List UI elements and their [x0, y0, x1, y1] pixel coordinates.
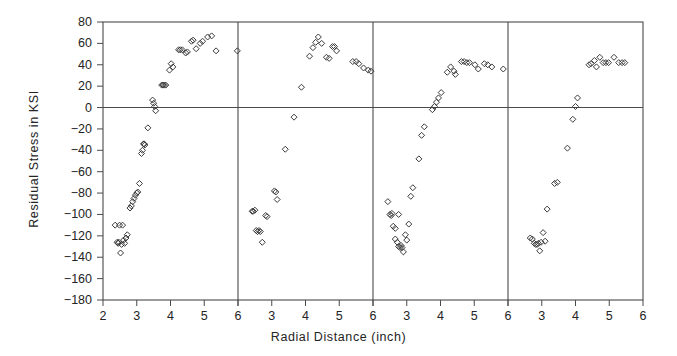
data-point	[444, 69, 450, 75]
data-point	[282, 146, 288, 152]
data-point	[402, 232, 408, 238]
data-point	[408, 193, 414, 199]
data-point	[421, 124, 427, 130]
data-point	[573, 103, 579, 109]
data-point	[332, 44, 338, 50]
data-point	[145, 125, 151, 131]
data-point	[323, 54, 329, 60]
data-point	[554, 179, 560, 185]
data-point	[274, 196, 280, 202]
data-point	[259, 239, 265, 245]
data-point	[213, 48, 219, 54]
data-point	[319, 40, 325, 46]
data-point	[151, 100, 157, 106]
data-point	[150, 97, 156, 103]
data-point	[419, 132, 425, 138]
data-point	[564, 145, 570, 151]
data-point	[435, 95, 441, 101]
data-point	[234, 48, 240, 54]
data-point	[390, 223, 396, 229]
data-point	[404, 237, 410, 243]
data-point	[326, 55, 332, 61]
data-point	[122, 240, 128, 246]
data-point	[330, 44, 336, 50]
data-point	[611, 54, 617, 60]
data-point	[433, 99, 439, 105]
data-point	[310, 45, 316, 51]
data-point	[597, 54, 603, 60]
data-point	[537, 248, 543, 254]
data-point	[593, 64, 599, 70]
data-point	[291, 114, 297, 120]
data-point	[544, 206, 550, 212]
data-point	[307, 53, 313, 59]
data-point	[396, 211, 402, 217]
data-point	[315, 34, 321, 40]
data-point	[118, 250, 124, 256]
plot-area	[0, 0, 677, 356]
data-point	[406, 221, 412, 227]
data-point	[552, 180, 558, 186]
data-point	[438, 90, 444, 96]
data-point	[334, 48, 340, 54]
data-point	[489, 64, 495, 70]
data-series-panel-4	[527, 54, 628, 254]
data-series-panel-2	[249, 34, 374, 245]
data-point	[112, 222, 118, 228]
data-series-panel-1	[112, 33, 240, 256]
data-point	[416, 156, 422, 162]
data-point	[385, 199, 391, 205]
data-point	[540, 230, 546, 236]
scatter-chart-figure: Residual Stress in KSI Radial Distance (…	[0, 0, 677, 356]
data-point	[193, 46, 199, 52]
data-point	[570, 116, 576, 122]
data-point	[313, 39, 319, 45]
data-point	[410, 185, 416, 191]
data-series-panel-3	[385, 59, 506, 255]
data-point	[298, 84, 304, 90]
data-point	[136, 180, 142, 186]
data-point	[392, 225, 398, 231]
data-point	[500, 66, 506, 72]
data-point	[138, 151, 144, 157]
data-point	[575, 95, 581, 101]
